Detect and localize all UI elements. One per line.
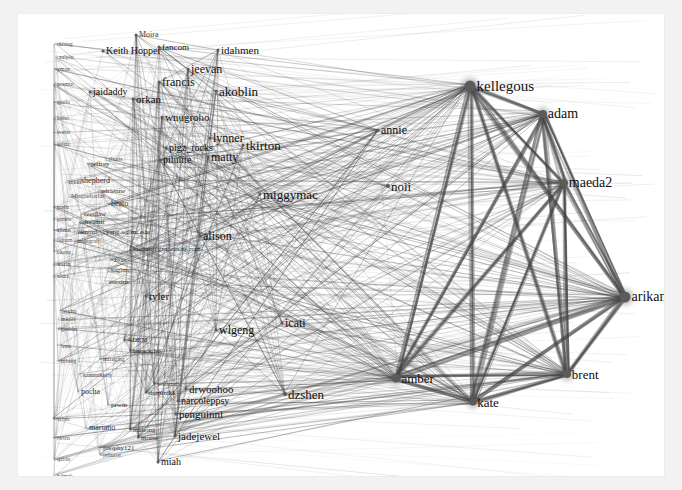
graph-node-label[interactable]: wolfcrat (157, 381, 177, 387)
graph-node-label[interactable]: miggymac (263, 188, 318, 201)
graph-node-label[interactable]: jiaophy121 (103, 445, 135, 452)
graph-node-label[interactable]: kate (477, 396, 499, 409)
graph-node-label[interactable]: narcoleppsy (181, 396, 229, 406)
graph-node-label[interactable]: mariano (89, 424, 115, 432)
graph-node-dot[interactable] (563, 370, 571, 378)
graph-node-dot[interactable] (377, 129, 380, 132)
graph-node-label[interactable]: dominikk (149, 390, 176, 397)
graph-node-label[interactable]: dzshen (288, 388, 324, 401)
graph-node-label[interactable]: prwin (111, 402, 127, 409)
graph-node-label[interactable]: tkirton (246, 139, 281, 152)
graph-node-dot[interactable] (132, 98, 135, 101)
graph-node-label[interactable]: zlimn (57, 227, 71, 233)
graph-node-label[interactable]: lynner (213, 132, 244, 144)
graph-node-label[interactable]: penguinni (179, 409, 223, 420)
graph-node-dot[interactable] (281, 322, 284, 325)
graph-node-label[interactable]: pigz_rocks (169, 143, 213, 153)
graph-node-dot[interactable] (158, 81, 161, 84)
graph-node-dot[interactable] (161, 116, 164, 119)
graph-node-label[interactable]: ymaz (57, 66, 70, 72)
graph-node-label[interactable]: mfreging (103, 356, 125, 362)
graph-node-dot[interactable] (158, 46, 161, 49)
graph-node-dot[interactable] (175, 413, 178, 416)
graph-node-dot[interactable] (174, 435, 177, 438)
graph-node-label[interactable]: kuclan@graceus.nj.com (133, 246, 200, 253)
graph-node-label[interactable]: borln (57, 129, 70, 135)
graph-node-label[interactable]: mdegraft (78, 238, 100, 244)
graph-node-dot[interactable] (185, 388, 188, 391)
graph-node-label[interactable]: barack.ltd (133, 348, 161, 355)
graph-node-label[interactable]: mkilli (61, 316, 75, 322)
graph-node-label[interactable]: jadejewel (178, 431, 220, 442)
graph-node-dot[interactable] (209, 137, 212, 140)
graph-node-label[interactable]: nikki (69, 179, 81, 185)
graph-node-label[interactable]: reedlaw (84, 211, 106, 218)
graph-node-label[interactable]: kaminikerly (83, 372, 112, 378)
graph-node-dot[interactable] (159, 159, 162, 162)
graph-node-label[interactable]: rbutts (109, 156, 123, 162)
graph-node-label[interactable]: yrcha (63, 308, 76, 314)
graph-node-label[interactable]: alison (203, 230, 232, 242)
network-graph-canvas[interactable]: kellegousadammaeda2arikanbrentkateamberd… (18, 14, 664, 476)
graph-node-label[interactable]: morse (141, 435, 158, 442)
graph-node-dot[interactable] (165, 147, 168, 150)
graph-node-dot[interactable] (135, 34, 138, 37)
graph-node-label[interactable]: saglmc (111, 267, 131, 274)
graph-node-dot[interactable] (470, 399, 477, 406)
graph-node-label[interactable]: amber (401, 372, 433, 385)
graph-node-label[interactable]: pilulite (163, 155, 191, 165)
graph-node-label[interactable]: hiberg (61, 358, 76, 364)
graph-node-label[interactable]: rkbing (57, 41, 73, 47)
graph-node-label[interactable]: jeffrey (91, 161, 110, 168)
graph-node-label[interactable]: adrienne (101, 188, 125, 195)
graph-node-label[interactable]: esesins (109, 279, 129, 286)
graph-node-dot[interactable] (89, 91, 92, 94)
graph-node-label[interactable]: wlgeng (219, 324, 254, 336)
graph-node-label[interactable]: pinkw (57, 216, 72, 222)
graph-node-label[interactable]: lenn (61, 343, 71, 349)
graph-node-label[interactable]: wsrln (57, 261, 70, 267)
graph-node-label[interactable]: qzbln (57, 456, 70, 462)
graph-node-dot[interactable] (217, 49, 220, 52)
graph-node-label[interactable]: jeevan (191, 63, 222, 75)
graph-node-label[interactable]: vrbnt (57, 416, 70, 422)
graph-node-label[interactable]: gorbin (61, 326, 77, 332)
graph-node-label[interactable]: geelo (57, 99, 70, 105)
graph-node-label[interactable]: miah (161, 457, 181, 467)
graph-node-dot[interactable] (215, 329, 218, 332)
graph-node-label[interactable]: prsmin (57, 81, 74, 87)
graph-node-dot[interactable] (102, 50, 105, 53)
graph-node-label[interactable]: francis (162, 76, 195, 88)
graph-node-label[interactable]: jaidaddy (93, 87, 127, 97)
graph-node-label[interactable]: selda (57, 141, 69, 147)
graph-node-label[interactable]: kellegous (477, 79, 535, 94)
graph-node-label[interactable]: idahmen (221, 45, 259, 56)
graph-node-label[interactable]: lwtrn (57, 435, 70, 441)
graph-node-label[interactable]: nldrs (57, 273, 69, 279)
graph-node-label[interactable]: maeda2 (569, 176, 613, 190)
graph-node-label[interactable]: Keith Hopper (106, 46, 161, 56)
graph-node-dot[interactable] (392, 374, 401, 383)
graph-node-dot[interactable] (259, 193, 262, 196)
graph-node-dot[interactable] (199, 235, 202, 238)
graph-node-dot[interactable] (215, 90, 218, 93)
graph-node-label[interactable]: shepherd (81, 177, 110, 185)
graph-node-label[interactable]: zeas (114, 257, 126, 264)
graph-node-dot[interactable] (560, 179, 568, 187)
graph-node-label[interactable]: jellucot (103, 452, 121, 458)
graph-node-label[interactable]: aknouf (78, 229, 97, 236)
graph-node-label[interactable]: odnrm (57, 237, 73, 243)
graph-node-label[interactable]: pocha (81, 388, 100, 396)
graph-node-label[interactable]: icati (285, 317, 306, 329)
graph-node-label[interactable]: noii (391, 180, 411, 193)
graph-node-label[interactable]: matty (211, 151, 238, 163)
graph-node-dot[interactable] (620, 292, 631, 303)
graph-node-label[interactable]: adam (548, 107, 578, 121)
graph-node-label[interactable]: hdmrk (57, 473, 73, 476)
graph-node-label[interactable]: wnugroho (165, 112, 210, 123)
graph-node-dot[interactable] (157, 461, 160, 464)
graph-node-label[interactable]: kelnt (57, 115, 69, 121)
graph-node-label[interactable]: ADEM (127, 337, 148, 344)
graph-node-dot[interactable] (386, 184, 390, 188)
graph-node-dot[interactable] (187, 68, 190, 71)
